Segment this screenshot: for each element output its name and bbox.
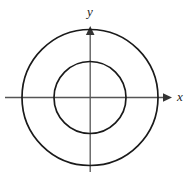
concentric-circles-diagram: y x — [0, 0, 194, 177]
figure-background — [0, 0, 194, 177]
y-axis-label: y — [85, 4, 93, 19]
x-axis-label: x — [176, 89, 183, 104]
figure-canvas: y x — [0, 0, 194, 177]
